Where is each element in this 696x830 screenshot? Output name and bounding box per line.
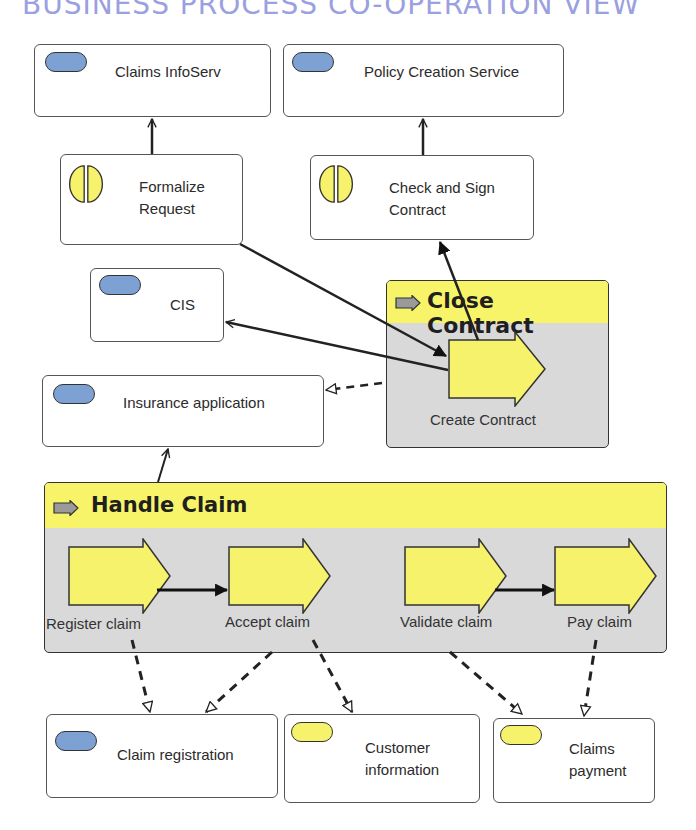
check-and-sign-contract-box[interactable]: Check and Sign Contract <box>310 155 534 240</box>
application-service-icon <box>292 52 334 72</box>
register-claim-label: Register claim <box>46 615 141 632</box>
claims-payment-box[interactable]: Claims payment <box>493 718 655 803</box>
create-contract-label: Create Contract <box>430 411 536 428</box>
validate-to-claims-payment-dashed <box>450 652 522 714</box>
formalize-request-label-line2: Request <box>139 199 195 219</box>
claims-payment-label-line1: Claims <box>569 739 615 759</box>
formalize-request-box[interactable]: Formalize Request <box>60 154 243 245</box>
process-arrow-icon <box>395 295 421 311</box>
claim-registration-box[interactable]: Claim registration <box>46 714 278 798</box>
close-contract-process[interactable]: Close Contract Create Contract <box>386 280 609 448</box>
business-interaction-icon <box>318 164 354 204</box>
accept-to-claim-registration-dashed <box>206 652 272 712</box>
claims-infoserv-label: Claims InfoServ <box>115 62 221 82</box>
formalize-request-label-line1: Formalize <box>139 177 205 197</box>
customer-information-box[interactable]: Customer information <box>284 714 480 803</box>
pay-claim-label: Pay claim <box>567 613 632 630</box>
cis-label: CIS <box>170 295 195 315</box>
accept-claim-label: Accept claim <box>225 613 310 630</box>
claim-registration-label: Claim registration <box>117 745 234 765</box>
pay-claim-step-icon[interactable] <box>554 538 658 614</box>
application-service-icon <box>45 52 87 72</box>
business-interaction-icon <box>68 164 104 204</box>
create-contract-step-icon[interactable] <box>448 331 548 407</box>
insurance-application-label: Insurance application <box>123 393 265 413</box>
policy-creation-service-box[interactable]: Policy Creation Service <box>283 44 564 117</box>
business-object-icon <box>500 725 542 745</box>
application-service-icon <box>53 384 95 404</box>
validate-claim-step-icon[interactable] <box>404 538 508 614</box>
register-claim-step-icon[interactable] <box>68 538 172 614</box>
process-arrow-icon <box>53 500 79 516</box>
claims-payment-label-line2: payment <box>569 761 627 781</box>
business-object-icon <box>291 722 333 742</box>
policy-creation-service-label: Policy Creation Service <box>364 62 519 82</box>
check-and-sign-label-line1: Check and Sign <box>389 178 495 198</box>
insurance-application-box[interactable]: Insurance application <box>42 375 324 447</box>
application-service-icon <box>99 275 141 295</box>
close-contract-to-insurance-application-dashed <box>326 383 382 390</box>
validate-claim-label: Validate claim <box>400 613 492 630</box>
check-and-sign-label-line2: Contract <box>389 200 446 220</box>
customer-information-label-line1: Customer <box>365 738 430 758</box>
customer-information-label-line2: information <box>365 760 439 780</box>
accept-claim-step-icon[interactable] <box>228 538 332 614</box>
diagram-title: BUSINESS PROCESS CO-OPERATION VIEW <box>22 0 640 21</box>
cis-box[interactable]: CIS <box>90 268 224 342</box>
application-service-icon <box>55 731 97 751</box>
handle-claim-title: Handle Claim <box>91 493 247 517</box>
handle-claim-process[interactable]: Handle Claim Register claim Accept claim… <box>44 482 667 653</box>
handle-claim-to-insurance-application-arrow <box>158 449 168 482</box>
claims-infoserv-box[interactable]: Claims InfoServ <box>34 44 271 117</box>
